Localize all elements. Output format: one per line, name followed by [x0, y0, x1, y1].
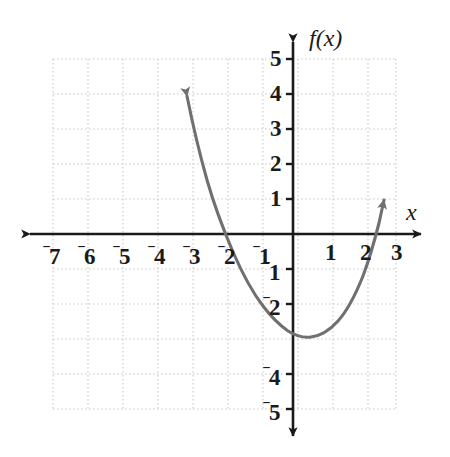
- x-tick-label: ⁻4: [147, 241, 165, 268]
- y-axis-label: f(x): [309, 26, 342, 50]
- x-tick-label: ⁻7: [42, 241, 60, 268]
- coordinate-plane: [0, 0, 450, 457]
- x-tick-label: 3: [391, 241, 403, 264]
- x-tick-label: ⁻6: [77, 241, 95, 268]
- y-tick-label: ⁻5: [262, 397, 280, 424]
- parabola-curve: [187, 96, 384, 337]
- y-tick-label: ⁻1: [262, 257, 280, 284]
- y-tick-label: ⁻4: [262, 362, 280, 389]
- y-tick-label: ⁻2: [262, 292, 280, 319]
- y-tick-label: 3: [270, 117, 282, 140]
- graph-figure: ⁻7 ⁻6 ⁻5 ⁻4 ⁻3 ⁻2 ⁻1 1 2 3 5 4 3 2 1 ⁻1 …: [0, 0, 450, 457]
- x-tick-label: ⁻3: [182, 241, 200, 268]
- x-tick-label: ⁻5: [112, 241, 130, 268]
- y-tick-label: 1: [270, 187, 282, 210]
- x-tick-label: 2: [360, 241, 372, 264]
- y-tick-label: 5: [270, 47, 282, 70]
- x-tick-label: 1: [325, 241, 337, 264]
- x-tick-label: ⁻2: [217, 241, 235, 268]
- y-tick-label: 2: [270, 152, 282, 175]
- y-tick-label: 4: [270, 82, 282, 105]
- x-axis-label: x: [406, 200, 417, 224]
